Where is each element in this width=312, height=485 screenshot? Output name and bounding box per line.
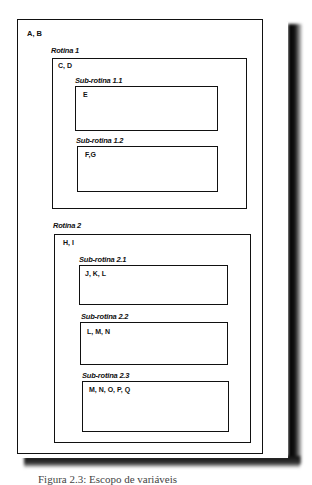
subroutine-2-2-label: Sub-rotina 2.2 <box>81 312 128 321</box>
subroutine-1-2-box <box>77 146 218 192</box>
subroutine-1-2-label: Sub-rotina 1.2 <box>76 136 123 145</box>
routine-2-vars: H, I <box>63 239 74 246</box>
figure-caption: Figura 2.3: Escopo de variáveis <box>38 473 177 485</box>
subroutine-1-1-label: Sub-rotina 1.1 <box>75 76 122 85</box>
subroutine-2-1-label: Sub-rotina 2.1 <box>79 255 126 264</box>
routine-1-label: Rotina 1 <box>51 46 79 55</box>
subroutine-1-2-vars: F,G <box>85 151 96 158</box>
subroutine-2-3-label: Sub-rotina 2.3 <box>82 371 129 380</box>
subroutine-2-1-vars: J, K, L <box>85 270 106 277</box>
subroutine-2-3-vars: M, N, O, P, Q <box>89 386 130 393</box>
subroutine-1-1-box <box>75 86 218 131</box>
routine-1-vars: C, D <box>58 62 72 69</box>
subroutine-1-1-vars: E <box>83 91 88 98</box>
routine-2-label: Rotina 2 <box>53 221 81 230</box>
program-vars: A, B <box>27 29 42 38</box>
page-shadow-right <box>288 24 302 464</box>
subroutine-2-2-vars: L, M, N <box>87 328 110 335</box>
